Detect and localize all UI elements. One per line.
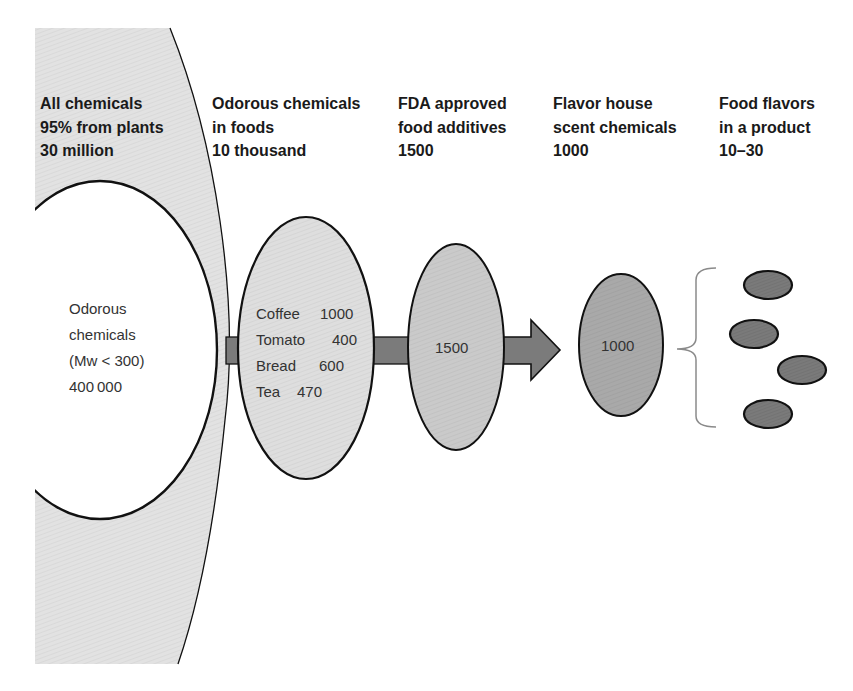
product-flavor-oval — [744, 271, 792, 299]
food-source-item: Coffee 1000 — [256, 301, 376, 327]
food-name: Tomato — [256, 331, 305, 348]
food-source-item: Tomato 400 — [256, 327, 376, 353]
label-line: Odorous — [69, 296, 144, 322]
header-line: Flavor house — [553, 92, 677, 116]
label-line: 400 000 — [69, 374, 144, 400]
header-all-chemicals: All chemicals 95% from plants 30 million — [40, 92, 164, 163]
flavor-house-ellipse-label: 1000 — [601, 337, 634, 354]
label-line: (Mw < 300) — [69, 348, 144, 374]
product-flavor-oval — [744, 400, 792, 428]
food-source-item: Tea 470 — [256, 379, 376, 405]
header-line: Odorous chemicals — [212, 92, 361, 116]
product-flavor-oval — [730, 320, 778, 348]
food-count: 1000 — [320, 301, 353, 327]
header-line: 95% from plants — [40, 116, 164, 140]
header-line: 1500 — [398, 139, 507, 163]
food-source-item: Bread 600 — [256, 353, 376, 379]
food-sources-list: Coffee 1000 Tomato 400 Bread 600 Tea 470 — [256, 301, 376, 405]
label-line: chemicals — [69, 322, 144, 348]
food-count: 470 — [297, 379, 322, 405]
header-food-flavors: Food flavors in a product 10–30 — [719, 92, 815, 163]
header-line: 10 thousand — [212, 139, 361, 163]
header-line: scent chemicals — [553, 116, 677, 140]
header-line: 30 million — [40, 139, 164, 163]
food-name: Bread — [256, 357, 296, 374]
fda-ellipse-label: 1500 — [435, 339, 468, 356]
food-name: Tea — [256, 383, 280, 400]
header-line: in foods — [212, 116, 361, 140]
product-flavor-ovals — [730, 271, 826, 428]
header-line: 10–30 — [719, 139, 815, 163]
header-flavor-house: Flavor house scent chemicals 1000 — [553, 92, 677, 163]
header-odorous-in-foods: Odorous chemicals in foods 10 thousand — [212, 92, 361, 163]
header-line: food additives — [398, 116, 507, 140]
product-flavor-oval — [778, 356, 826, 384]
food-name: Coffee — [256, 305, 300, 322]
header-line: 1000 — [553, 139, 677, 163]
header-line: All chemicals — [40, 92, 164, 116]
header-fda-additives: FDA approved food additives 1500 — [398, 92, 507, 163]
odorous-subset-label: Odorous chemicals (Mw < 300) 400 000 — [69, 296, 144, 400]
brace-icon — [677, 268, 716, 427]
food-count: 400 — [332, 327, 357, 353]
header-line: in a product — [719, 116, 815, 140]
food-count: 600 — [319, 353, 344, 379]
header-line: Food flavors — [719, 92, 815, 116]
header-line: FDA approved — [398, 92, 507, 116]
